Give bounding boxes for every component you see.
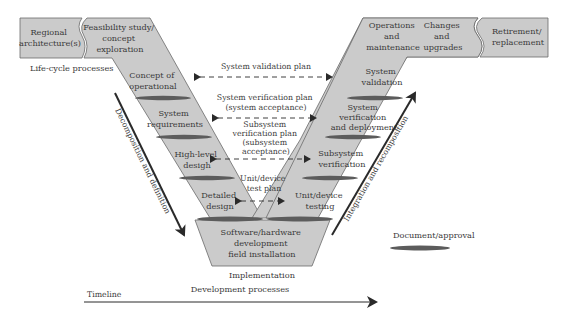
development-processes-label: Development processes <box>191 284 289 294</box>
detailed-design-label: Detailed design <box>201 190 239 211</box>
v-model-diagram: Regional architecture(s) Feasibility stu… <box>0 0 562 320</box>
unit-device-test-plan-label: Unit/device test plan <box>240 174 288 193</box>
document-ellipse <box>347 96 403 100</box>
document-ellipse <box>325 135 381 139</box>
timeline-label: Timeline <box>87 290 122 299</box>
system-validation-label: System validation <box>361 66 404 87</box>
system-validation-plan-label: System validation plan <box>221 62 311 71</box>
document-ellipse <box>267 217 333 222</box>
document-ellipse <box>156 135 212 139</box>
document-ellipse <box>135 96 191 100</box>
legend-label: Document/approval <box>393 230 475 240</box>
document-ellipse <box>179 176 235 180</box>
life-cycle-caption: Life-cycle processes <box>30 63 114 73</box>
implementation-caption: Implementation <box>229 270 296 280</box>
retirement-label: Retirement/ replacement <box>492 26 545 47</box>
system-verification-plan-label: System verification plan (system accepta… <box>217 93 315 112</box>
legend-document-ellipse <box>390 246 450 251</box>
subsystem-verification-plan-label: Subsystem verification plan (subsystem a… <box>232 120 300 156</box>
concept-of-operations-label: Concept of operational <box>129 70 177 91</box>
subsystem-verification-label: Subsystem verification <box>317 148 366 169</box>
document-ellipse <box>302 176 358 180</box>
document-ellipse <box>197 217 263 222</box>
